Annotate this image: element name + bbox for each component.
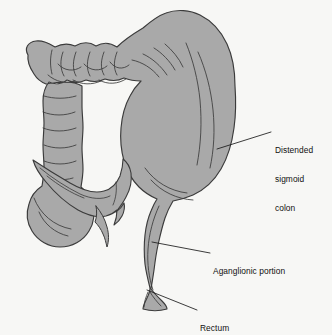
label-sigmoid-line2: sigmoid: [275, 175, 313, 185]
label-distended-sigmoid-colon: Distended sigmoid colon: [275, 127, 313, 233]
label-sigmoid-line1: Distended: [275, 146, 313, 156]
colon-outline-path: [26, 11, 235, 311]
label-aganglionic-portion: Aganglionic portion: [213, 248, 285, 296]
leader-line-aganglionic: [152, 242, 210, 253]
label-rectum-line1: Rectum: [200, 324, 229, 334]
label-sigmoid-line3: colon: [275, 204, 313, 214]
label-rectum: Rectum: [200, 305, 229, 335]
label-aganglionic-line1: Aganglionic portion: [213, 267, 285, 277]
colon-body-group: [26, 11, 235, 311]
